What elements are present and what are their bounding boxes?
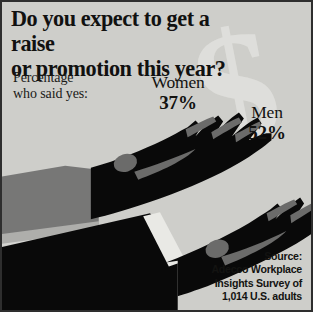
stat-women-label: Women bbox=[139, 73, 217, 91]
source-attribution: Source: Adecco Workplace Insights Survey… bbox=[152, 250, 302, 304]
stat-men-label: Men bbox=[230, 103, 304, 121]
stat-men-value: 52% bbox=[230, 121, 304, 144]
stat-women-value: 37% bbox=[139, 91, 217, 114]
stat-men: Men 52% bbox=[230, 103, 304, 145]
stat-women: Women 37% bbox=[139, 73, 217, 115]
infographic-card: $ Do you expect to get a raise or promot… bbox=[0, 0, 313, 312]
subtitle-label: Percentage who said yes: bbox=[13, 70, 88, 102]
